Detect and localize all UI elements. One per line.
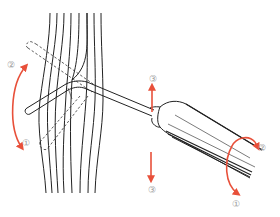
svg-text:③: ③ [148, 185, 156, 195]
label-handle-2: ② [258, 143, 266, 153]
label-move-down-3: ③ [148, 185, 156, 195]
rotate-tip-arc-icon [13, 66, 26, 148]
label-handle-1: ① [232, 199, 240, 209]
svg-text:①: ① [22, 138, 30, 148]
svg-text:②: ② [7, 60, 15, 70]
label-move-up-3: ③ [149, 74, 157, 84]
svg-text:②: ② [258, 143, 266, 153]
cylindrical-handle [150, 101, 262, 178]
fiber-bundle [39, 13, 103, 193]
label-tip-2: ② [7, 60, 15, 70]
label-tip-1: ① [22, 138, 30, 148]
svg-text:①: ① [232, 199, 240, 209]
svg-text:③: ③ [149, 74, 157, 84]
probe-shaft [25, 81, 154, 116]
handle-rotate-arc-icon [227, 138, 255, 194]
probe-fiber-diagram: ② ① ③ ③ ② ① [0, 0, 280, 217]
